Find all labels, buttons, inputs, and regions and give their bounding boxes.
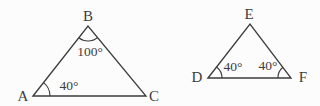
triangle-abc: A B C 100° 40° xyxy=(18,8,159,104)
geometry-diagram: A B C 100° 40° D E F 40° 40° xyxy=(0,0,320,106)
vertex-label-d: D xyxy=(192,69,203,85)
triangle-def: D E F 40° 40° xyxy=(192,6,308,85)
triangle-def-outline xyxy=(208,24,291,78)
triangle-abc-outline xyxy=(33,26,146,96)
angle-label-b: 100° xyxy=(77,44,103,59)
angle-label-f: 40° xyxy=(259,58,278,73)
angle-arc-f xyxy=(278,67,283,78)
vertex-label-a: A xyxy=(18,88,29,104)
vertex-label-b: B xyxy=(83,8,93,24)
angle-label-d: 40° xyxy=(224,59,243,74)
angle-label-a: 40° xyxy=(60,78,79,93)
angle-arc-b xyxy=(79,38,98,42)
vertex-label-f: F xyxy=(299,69,307,85)
vertex-label-c: C xyxy=(149,88,159,104)
triangles-figure: A B C 100° 40° D E F 40° 40° xyxy=(0,0,320,106)
vertex-label-e: E xyxy=(244,6,253,22)
angle-arc-d xyxy=(217,67,222,78)
angle-arc-a xyxy=(44,83,51,96)
